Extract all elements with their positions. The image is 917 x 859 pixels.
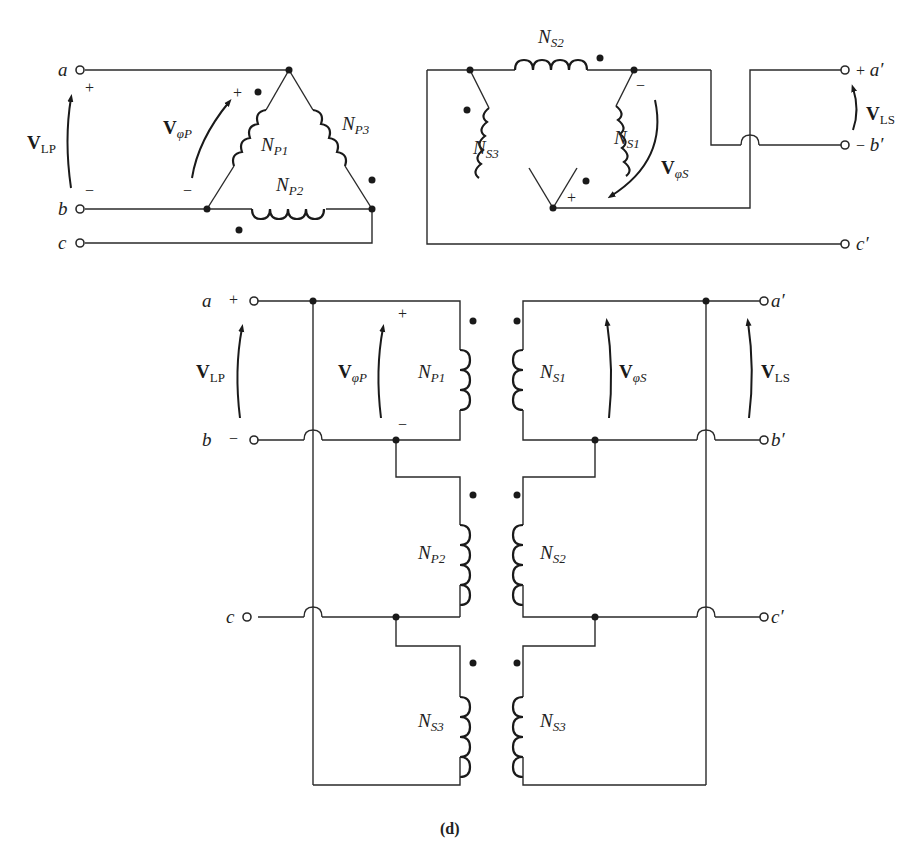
wire: [322, 410, 460, 440]
coil-ns2: [513, 525, 523, 605]
coil-label-ns1: NS1: [540, 362, 566, 384]
junction-node: [204, 206, 211, 213]
junction-node: [703, 298, 710, 305]
terminal-b: [76, 205, 84, 213]
wire: [523, 440, 595, 525]
polarity-plus: +: [398, 306, 407, 322]
terminal-label-a-prime: + a′: [856, 60, 883, 79]
voltage-label-vls: VLS: [866, 104, 895, 126]
terminal-a: [76, 66, 84, 74]
polarity-plus: +: [567, 190, 576, 206]
wire-b-prime: [711, 70, 741, 145]
polarity-dot: [470, 660, 477, 667]
coil-ns2: [515, 60, 587, 70]
polarity-dot: [255, 89, 262, 96]
terminal-label-a: a: [202, 291, 212, 310]
junction-node: [592, 437, 599, 444]
polarity-dot: [514, 660, 521, 667]
polarity-dot: [236, 227, 243, 234]
terminal-b-prime: [760, 436, 768, 444]
wire: [266, 70, 289, 110]
coil-primary-3: [460, 697, 470, 777]
terminal-a: [250, 297, 258, 305]
coil-label-np2: NP2: [418, 543, 445, 565]
polarity-dot: [514, 492, 521, 499]
coil-np2: [252, 209, 324, 219]
coil-label-np3: NP3: [342, 114, 369, 136]
coil-label-np2: NP2: [276, 175, 303, 197]
polarity-dot: [583, 178, 590, 185]
terminal-label-c-prime: c′: [771, 607, 784, 626]
terminal-c-prime: [841, 240, 849, 248]
wire: [345, 166, 372, 209]
voltage-arrow-vlp: [68, 98, 72, 188]
coil-ns3: [513, 697, 523, 777]
junction-node: [592, 614, 599, 621]
voltage-arrow-vphis: [607, 322, 611, 418]
wire-a-prime: [553, 70, 841, 208]
voltage-arrow-vphip: [192, 102, 229, 178]
terminal-label-b: b: [202, 430, 212, 449]
coil-label-primary-3: NS3: [418, 711, 444, 733]
terminal-label-a: a: [58, 60, 68, 79]
wire: [313, 757, 460, 785]
coil-label-np1: NP1: [418, 362, 445, 384]
delta-delta-wiring: [237, 297, 768, 785]
wire-a: [258, 301, 460, 350]
coil-label-ns2: NS2: [538, 27, 564, 49]
figure-caption: (d): [440, 820, 460, 838]
polarity-dot: [464, 107, 471, 114]
wire-c: [85, 209, 372, 243]
terminal-label-b-prime: b′: [771, 430, 785, 449]
wire: [207, 166, 234, 209]
coil-label-ns1: NS1: [614, 128, 640, 150]
terminal-a-prime: [841, 66, 849, 74]
coil-np1: [460, 350, 470, 410]
primary-delta-circuit: [68, 66, 376, 247]
polarity-plus: +: [85, 80, 94, 96]
polarity-minus: −: [229, 431, 238, 447]
coil-np2: [460, 525, 470, 605]
terminal-label-c-prime: c′: [856, 234, 869, 253]
polarity-plus: +: [233, 85, 242, 101]
voltage-label-vphis: VφS: [661, 158, 688, 180]
terminal-label-b: b: [58, 199, 68, 218]
polarity-dot: [470, 492, 477, 499]
wire: [396, 440, 460, 525]
polarity-minus: −: [85, 183, 94, 199]
terminal-c-prime: [760, 613, 768, 621]
wire: [523, 585, 697, 617]
voltage-arrow-vls: [853, 88, 857, 130]
wire: [529, 168, 553, 208]
voltage-arrow-vls: [748, 322, 752, 418]
terminal-label-b-prime: − b′: [856, 135, 883, 154]
junction-node: [393, 614, 400, 621]
polarity-dot: [514, 318, 521, 325]
terminal-c: [243, 613, 251, 621]
voltage-label-vphip: VφP: [338, 362, 367, 384]
coil-label-ns2: NS2: [540, 543, 566, 565]
terminal-b-prime: [841, 141, 849, 149]
junction-node: [550, 205, 557, 212]
coil-label-ns3: NS3: [540, 711, 566, 733]
junction-node: [369, 206, 376, 213]
voltage-arrow-vlp: [237, 328, 242, 418]
junction-node: [467, 67, 474, 74]
wire-a-prime: [523, 301, 760, 350]
voltage-label-vls: VLS: [761, 362, 790, 384]
polarity-minus: −: [636, 78, 645, 94]
terminal-c: [76, 239, 84, 247]
wire: [616, 70, 634, 106]
coil-ns1: [513, 350, 523, 410]
polarity-dot: [597, 55, 604, 62]
polarity-dot: [470, 318, 477, 325]
terminal-label-c: c: [226, 607, 234, 626]
voltage-label-vlp: VLP: [196, 362, 225, 384]
coil-label-ns3: NS3: [473, 138, 499, 160]
junction-node: [631, 67, 638, 74]
terminal-label-a-prime: a′: [771, 291, 785, 310]
junction-node: [393, 437, 400, 444]
wire: [396, 617, 460, 697]
voltage-label-vphip: VφP: [163, 118, 192, 140]
polarity-plus: +: [229, 292, 238, 308]
